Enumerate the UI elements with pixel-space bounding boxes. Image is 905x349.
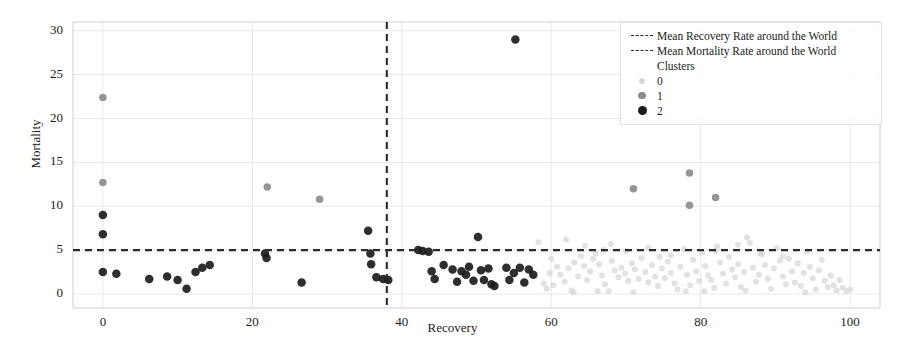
data-point <box>575 273 581 279</box>
data-point <box>701 288 707 294</box>
data-point <box>562 279 568 285</box>
data-point <box>99 230 108 239</box>
data-point <box>547 270 553 276</box>
data-point <box>756 272 762 278</box>
data-point <box>723 280 729 286</box>
y-tick-label: 10 <box>15 197 63 213</box>
data-point <box>762 262 768 268</box>
legend-label-mean-recovery: Mean Recovery Rate around the World <box>657 30 837 42</box>
data-point <box>554 264 560 270</box>
data-point <box>632 266 638 272</box>
data-point <box>477 266 486 275</box>
data-point <box>702 263 708 269</box>
data-point <box>783 281 789 287</box>
legend-row-mean-mortality: Mean Mortality Rate around the World <box>627 43 875 58</box>
data-point <box>364 227 373 236</box>
data-point <box>813 287 819 293</box>
data-point <box>629 260 635 266</box>
data-point <box>693 268 699 274</box>
data-point <box>474 233 483 242</box>
legend-row-cluster-2: 2 <box>627 103 875 118</box>
data-point <box>448 265 457 274</box>
data-point <box>747 240 753 246</box>
x-tick-label: 0 <box>78 314 128 330</box>
data-point <box>780 273 786 279</box>
data-point <box>789 268 795 274</box>
data-point <box>744 235 750 241</box>
data-point <box>505 276 514 285</box>
data-point <box>735 261 741 267</box>
data-point <box>655 283 661 289</box>
data-point <box>618 265 624 271</box>
data-point <box>571 289 577 295</box>
data-point <box>173 276 182 285</box>
cluster-1-marker-icon <box>627 92 657 100</box>
data-point <box>541 280 547 286</box>
data-point <box>677 264 683 270</box>
data-point <box>99 268 108 277</box>
y-tick-label: 15 <box>15 153 63 169</box>
data-point <box>743 287 749 293</box>
x-tick-label: 80 <box>676 314 726 330</box>
data-point <box>801 270 807 276</box>
data-point <box>529 270 538 279</box>
data-point <box>798 283 804 289</box>
data-point <box>630 185 638 193</box>
data-point <box>602 281 608 287</box>
data-point <box>684 272 690 278</box>
data-point <box>649 262 655 268</box>
data-point <box>690 257 696 263</box>
data-point <box>112 270 121 279</box>
data-point <box>182 284 191 293</box>
data-point <box>683 288 689 294</box>
data-point <box>550 282 556 288</box>
data-point <box>696 278 702 284</box>
data-point <box>659 266 665 272</box>
data-point <box>565 266 571 272</box>
data-point <box>741 269 747 275</box>
data-point <box>639 255 645 261</box>
data-point <box>599 273 605 279</box>
data-point <box>544 286 550 292</box>
y-tick-label: 0 <box>15 285 63 301</box>
data-point <box>163 272 172 281</box>
data-point <box>608 241 614 247</box>
data-point <box>819 257 825 263</box>
data-point <box>792 280 798 286</box>
data-point <box>205 261 214 270</box>
y-tick-label: 5 <box>15 241 63 257</box>
data-point <box>831 282 837 288</box>
data-point <box>563 237 569 243</box>
data-point <box>622 271 628 277</box>
data-point <box>262 254 271 263</box>
legend-label-mean-mortality: Mean Mortality Rate around the World <box>657 45 836 57</box>
data-point <box>502 263 511 272</box>
data-point <box>584 277 590 283</box>
data-point <box>672 280 678 286</box>
data-point <box>430 275 439 284</box>
data-point <box>771 266 777 272</box>
data-point <box>687 282 693 288</box>
cluster-0-marker-icon <box>627 78 657 84</box>
data-point <box>786 256 792 262</box>
data-point <box>825 284 831 290</box>
data-point <box>768 286 774 292</box>
legend-row-cluster-0: 0 <box>627 73 875 88</box>
data-point <box>810 275 816 281</box>
data-point <box>735 242 741 248</box>
legend-group-title: Clusters <box>627 58 875 73</box>
data-point <box>581 263 587 269</box>
y-tick-label: 30 <box>15 22 63 38</box>
data-point <box>645 280 651 286</box>
data-point <box>828 273 834 279</box>
data-point <box>490 282 499 291</box>
data-point <box>712 194 720 202</box>
legend-label-cluster-2: 2 <box>657 105 663 117</box>
data-point <box>427 267 436 276</box>
data-point <box>665 259 671 265</box>
data-point <box>729 266 735 272</box>
data-point <box>834 287 840 293</box>
data-point <box>753 279 759 285</box>
data-point <box>480 276 489 285</box>
data-point <box>516 263 525 272</box>
